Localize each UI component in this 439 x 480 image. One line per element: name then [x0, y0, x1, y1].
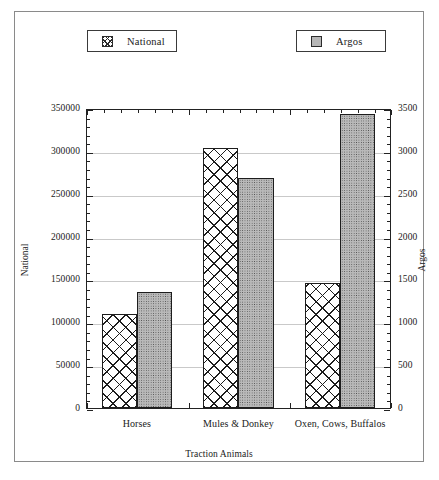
x-tick-minor [155, 110, 156, 113]
y-tick-minor [387, 187, 390, 188]
y-tick-minor [87, 136, 90, 137]
y-tick-right [384, 367, 390, 368]
bar-argos-1 [137, 292, 172, 408]
y-tick-label-left: 100000 [13, 317, 80, 327]
y-tick-minor [387, 273, 390, 274]
y-tick-right [384, 324, 390, 325]
legend-item-argos: Argos [296, 30, 386, 52]
y-tick-minor [87, 359, 90, 360]
y-axis-title-left: National [20, 244, 30, 277]
y-tick-minor [387, 127, 390, 128]
legend-label-argos: Argos [336, 36, 362, 47]
y-tick-minor [87, 307, 90, 308]
y-tick-minor [387, 230, 390, 231]
y-tick-label-left: 300000 [13, 146, 80, 156]
x-tick-minor [172, 110, 173, 113]
y-tick-minor [387, 247, 390, 248]
y-tick-minor [387, 316, 390, 317]
y-tick-minor [387, 333, 390, 334]
x-tick-minor [87, 110, 88, 113]
x-tick [391, 110, 392, 115]
y-tick-label-right: 2000 [398, 232, 417, 242]
y-tick-minor [87, 187, 90, 188]
bar-national-1 [102, 314, 137, 408]
y-tick-left [87, 153, 93, 154]
y-tick-minor [387, 264, 390, 265]
y-tick-label-left: 150000 [13, 274, 80, 284]
dotted-swatch [311, 36, 322, 47]
y-tick-left [87, 239, 93, 240]
y-tick-label-right: 2500 [398, 189, 417, 199]
x-category-label: Horses [86, 418, 188, 429]
x-tick-minor [273, 110, 274, 113]
y-axis-title-right: Argos [417, 248, 427, 271]
y-tick-minor [387, 384, 390, 385]
y-tick-minor [387, 376, 390, 377]
y-tick-minor [387, 350, 390, 351]
chart-figure: National Argos National Argos Traction A… [14, 11, 424, 462]
y-tick-minor [387, 401, 390, 402]
y-tick-minor [387, 119, 390, 120]
y-tick-minor [387, 341, 390, 342]
y-tick-minor [87, 119, 90, 120]
x-tick [290, 403, 291, 408]
y-tick-minor [87, 384, 90, 385]
x-tick-minor [223, 110, 224, 113]
y-tick-right [384, 153, 390, 154]
y-tick-left [87, 196, 93, 197]
y-tick-minor [387, 307, 390, 308]
y-tick-minor [87, 127, 90, 128]
y-tick-minor [87, 273, 90, 274]
y-tick-minor [387, 290, 390, 291]
legend-label-national: National [127, 36, 165, 47]
y-tick-label-left: 200000 [13, 232, 80, 242]
x-tick-minor [138, 110, 139, 113]
x-tick-minor [307, 110, 308, 113]
x-tick-minor [290, 110, 291, 113]
x-tick [391, 403, 392, 408]
legend-item-national: National [87, 30, 177, 52]
x-tick-minor [341, 110, 342, 113]
y-tick-left [87, 367, 93, 368]
y-tick-minor [87, 179, 90, 180]
plot-area [86, 109, 391, 409]
y-tick-left [87, 324, 93, 325]
y-tick-minor [387, 213, 390, 214]
y-tick-minor [87, 230, 90, 231]
x-tick-minor [240, 110, 241, 113]
x-tick [87, 403, 88, 408]
y-tick-minor [387, 359, 390, 360]
y-tick-minor [387, 161, 390, 162]
x-tick-minor [375, 110, 376, 113]
y-tick-minor [387, 393, 390, 394]
y-tick-label-right: 500 [398, 360, 413, 370]
y-tick-left [87, 410, 93, 411]
y-tick-minor [387, 221, 390, 222]
y-tick-minor [87, 247, 90, 248]
y-tick-label-right: 1500 [398, 274, 417, 284]
x-tick-minor [358, 110, 359, 113]
x-category-label: Oxen, Cows, Buffalos [289, 418, 391, 429]
bar-argos-3 [340, 114, 375, 408]
y-tick-minor [387, 256, 390, 257]
y-tick-minor [387, 204, 390, 205]
y-tick-minor [87, 213, 90, 214]
y-tick-minor [387, 170, 390, 171]
x-tick-minor [104, 110, 105, 113]
y-tick-label-right: 0 [398, 403, 403, 413]
y-tick-minor [87, 170, 90, 171]
y-tick-minor [87, 221, 90, 222]
x-tick [189, 403, 190, 408]
bar-national-3 [305, 283, 340, 408]
y-tick-right [384, 110, 390, 111]
cross-hatch-swatch [102, 36, 113, 47]
y-tick-label-left: 50000 [13, 360, 80, 370]
x-tick-minor [121, 110, 122, 113]
y-tick-minor [87, 264, 90, 265]
y-tick-minor [387, 136, 390, 137]
y-tick-label-left: 250000 [13, 189, 80, 199]
y-tick-minor [87, 299, 90, 300]
y-tick-minor [387, 179, 390, 180]
x-tick-minor [189, 110, 190, 113]
y-tick-minor [87, 333, 90, 334]
